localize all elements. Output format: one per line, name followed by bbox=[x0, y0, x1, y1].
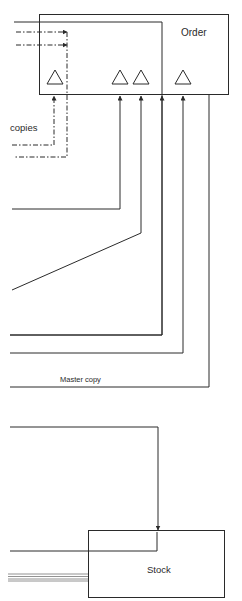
copies-label: copies bbox=[10, 122, 37, 133]
order-label: Order bbox=[181, 27, 207, 38]
copies-line bbox=[12, 96, 54, 145]
triangle-2 bbox=[112, 70, 128, 84]
triangle-1 bbox=[47, 70, 63, 84]
triangle-3 bbox=[133, 70, 149, 84]
flow-line-top bbox=[10, 22, 162, 335]
stock-output-line bbox=[10, 532, 157, 551]
master-copy-label: Master copy bbox=[60, 375, 101, 384]
flow-line-2 bbox=[12, 96, 120, 209]
triangle-4 bbox=[175, 70, 191, 84]
flow-diagram bbox=[0, 0, 242, 601]
stock-input-line bbox=[10, 427, 158, 530]
master-copy-line bbox=[10, 94, 209, 387]
flow-line-5 bbox=[10, 96, 183, 353]
stock-label: Stock bbox=[147, 564, 171, 575]
